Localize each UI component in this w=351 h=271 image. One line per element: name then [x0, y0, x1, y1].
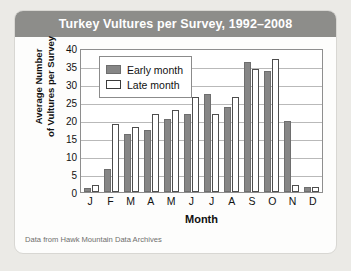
bar-late-month: [252, 69, 259, 192]
bar-early-month: [104, 169, 111, 192]
bar-late-month: [132, 127, 139, 192]
y-axis-tick-label: 35: [66, 62, 77, 73]
x-axis-tick-label: M: [121, 195, 141, 207]
bar-late-month: [232, 97, 239, 192]
chart-title-bar: Turkey Vultures per Survey, 1992–2008: [15, 11, 336, 37]
bar-early-month: [304, 187, 311, 192]
plot-box: Early month Late month: [80, 49, 323, 193]
chart-title: Turkey Vultures per Survey, 1992–2008: [59, 17, 292, 31]
source-note: Data from Hawk Mountain Data Archives: [25, 235, 162, 244]
y-axis-title-line-2: of Vultures per Survey: [44, 22, 56, 152]
bar-group: [222, 50, 242, 192]
bar-late-month: [92, 185, 99, 192]
x-axis-tick-label: S: [242, 195, 262, 207]
y-axis-tick-label: 5: [71, 170, 77, 181]
x-axis-tick-label: O: [262, 195, 282, 207]
bar-late-month: [272, 59, 279, 192]
y-axis-tick-label: 20: [66, 116, 77, 127]
y-axis-tick-label: 0: [71, 188, 77, 199]
x-axis-tick-labels: JFMAMJJASOND: [80, 195, 323, 207]
bar-early-month: [204, 94, 211, 192]
legend-item-late-month: Late month: [106, 77, 183, 92]
legend-swatch-late-month-icon: [106, 80, 121, 89]
y-axis-tick-label: 40: [66, 44, 77, 55]
y-axis-tick-label: 25: [66, 98, 77, 109]
bar-early-month: [184, 114, 191, 192]
bar-late-month: [312, 187, 319, 192]
x-axis-title: Month: [80, 213, 323, 225]
x-axis-tick-label: N: [283, 195, 303, 207]
bar-early-month: [84, 188, 91, 192]
legend-label-late-month: Late month: [127, 79, 180, 91]
x-axis-tick-label: J: [181, 195, 201, 207]
x-axis-tick-label: F: [100, 195, 120, 207]
bar-early-month: [264, 71, 271, 192]
bar-early-month: [164, 119, 171, 192]
plot-area: Average Number of Vultures per Survey 05…: [15, 37, 336, 254]
chart-legend: Early month Late month: [99, 56, 192, 98]
legend-item-early-month: Early month: [106, 62, 183, 77]
bar-late-month: [212, 114, 219, 192]
x-axis-tick-label: A: [222, 195, 242, 207]
bar-group: [201, 50, 221, 192]
bar-late-month: [172, 110, 179, 192]
legend-label-early-month: Early month: [127, 64, 183, 76]
bar-late-month: [112, 124, 119, 192]
bar-group: [262, 50, 282, 192]
bar-early-month: [124, 134, 131, 192]
y-axis-tick-label: 10: [66, 152, 77, 163]
x-axis-tick-label: A: [141, 195, 161, 207]
bar-group: [302, 50, 322, 192]
bar-early-month: [224, 107, 231, 192]
bar-early-month: [144, 130, 151, 192]
bar-late-month: [292, 185, 299, 192]
bar-early-month: [284, 121, 291, 192]
x-axis-tick-label: J: [80, 195, 100, 207]
x-axis-tick-label: M: [161, 195, 181, 207]
bar-early-month: [244, 62, 251, 192]
bar-group: [242, 50, 262, 192]
x-axis-tick-label: D: [303, 195, 323, 207]
y-axis-title: Average Number of Vultures per Survey: [33, 22, 56, 152]
y-axis-title-line-1: Average Number: [33, 22, 45, 152]
bar-late-month: [192, 97, 199, 192]
x-axis-tick-label: J: [202, 195, 222, 207]
legend-swatch-early-month-icon: [106, 65, 121, 74]
bar-group: [282, 50, 302, 192]
chart-card: Turkey Vultures per Survey, 1992–2008 Av…: [14, 10, 337, 254]
y-axis-tick-label: 15: [66, 134, 77, 145]
y-axis-tick-label: 30: [66, 80, 77, 91]
bar-late-month: [152, 114, 159, 192]
y-axis-tick-labels: 0510152025303540: [57, 49, 77, 193]
